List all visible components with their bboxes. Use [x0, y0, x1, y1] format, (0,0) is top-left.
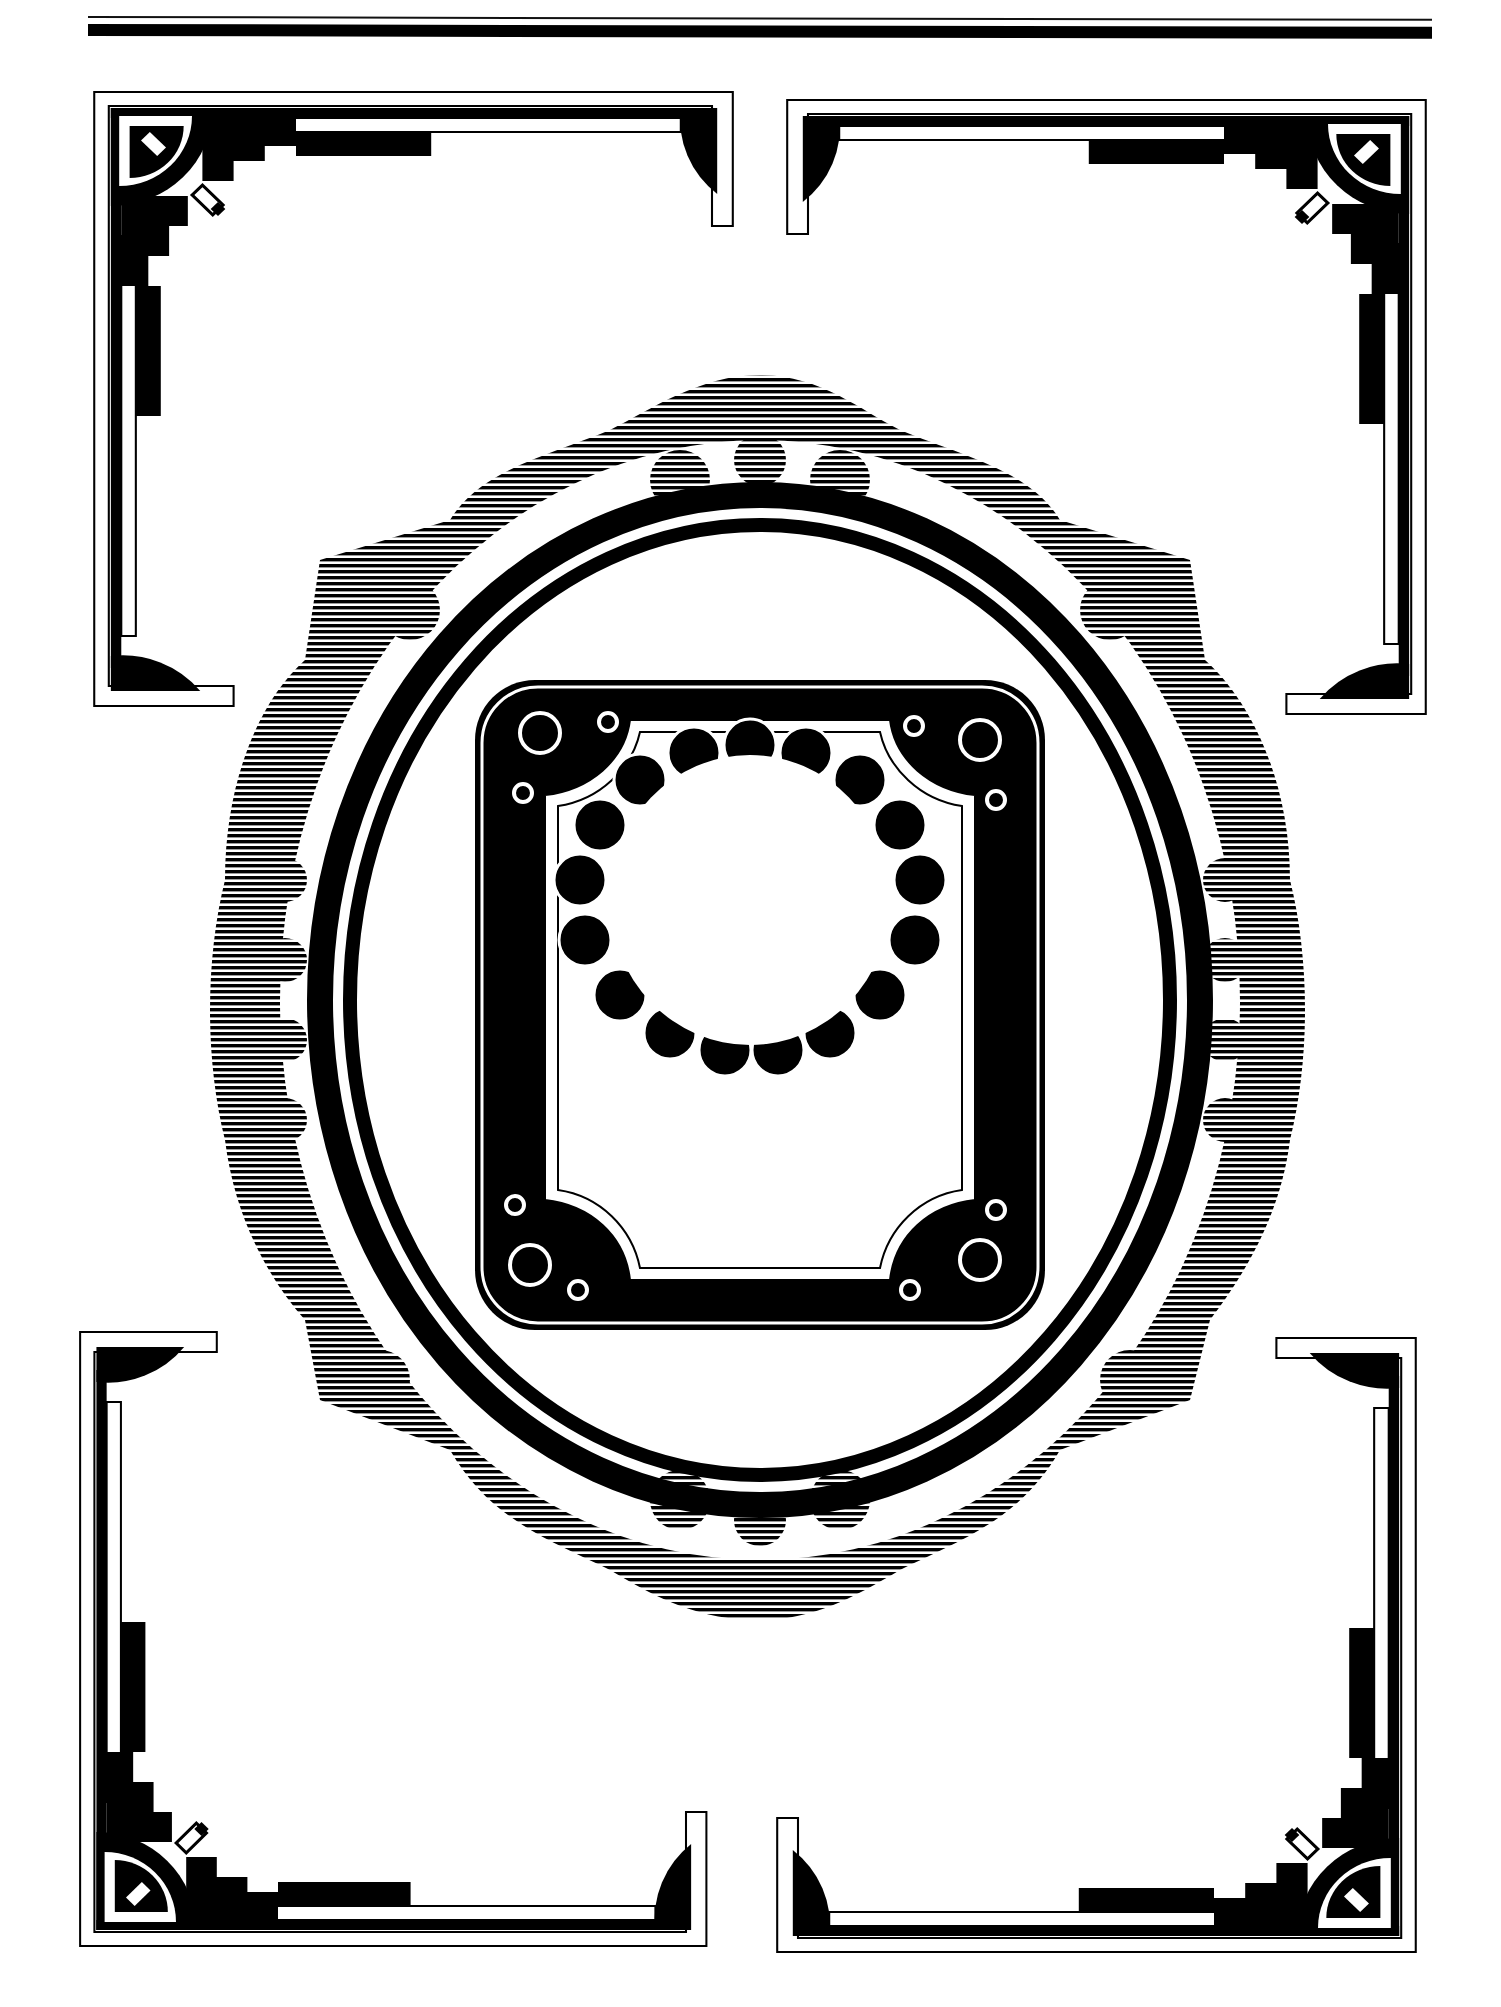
- clip-art-canvas: [0, 0, 1501, 2007]
